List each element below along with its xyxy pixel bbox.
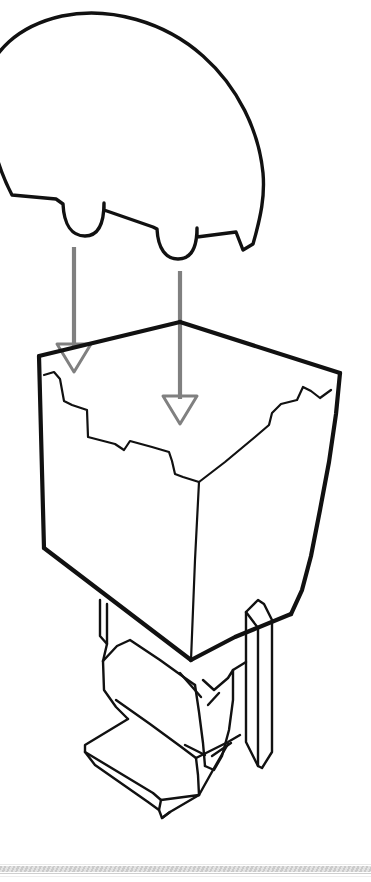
pedestal-lower-platform [85, 719, 199, 810]
pedestal-flap-left [100, 600, 107, 644]
assembly-illustration [0, 0, 371, 882]
box-rim-back-left [39, 322, 180, 356]
dome-lid [0, 13, 264, 259]
pedestal-facet-right [203, 670, 233, 770]
pedestal-flap-right-inner [246, 612, 258, 766]
pedestal-lower-platform-edge [85, 752, 161, 800]
figure-canvas: Dome lid insertion assembly diagram [0, 0, 371, 882]
insertion-arrow-right-head [163, 396, 197, 424]
dome-lid-outline [0, 13, 264, 259]
pedestal-fold-tick-a [180, 673, 201, 697]
pedestal-fold-tick-c [208, 693, 219, 705]
bottom-divider [0, 866, 371, 872]
box-inner-rim-left [44, 372, 199, 482]
divider-line-base [0, 876, 371, 877]
divider-line-bottom [0, 873, 371, 874]
insertion-arrow-right [163, 271, 197, 424]
box-edge-front-right [191, 614, 291, 660]
box-edge-front-left [44, 548, 191, 660]
box-edge-left-vertical [39, 356, 44, 548]
insertion-arrow-left [57, 247, 91, 372]
pedestal-step-upper-left [103, 640, 195, 685]
box-inner-rim-right [199, 387, 331, 482]
pedestal-spine-left [196, 758, 199, 795]
pedestal-fold-tick-b [185, 745, 205, 755]
pedestal-flap-right-notch [233, 662, 246, 670]
divider-line-top [0, 864, 371, 865]
box-rim-back-right [180, 322, 340, 373]
box-edge-right-vertical [291, 373, 340, 614]
open-box [39, 322, 340, 660]
pedestal-step-upper-inner [116, 700, 196, 758]
box-interior-corner [191, 482, 199, 660]
pedestal-step-upper-ridge [103, 661, 128, 719]
